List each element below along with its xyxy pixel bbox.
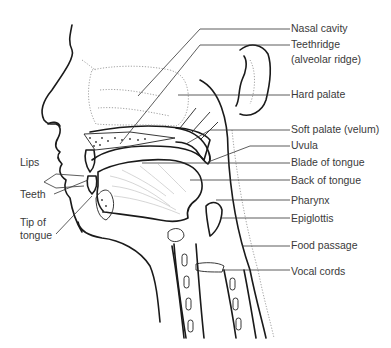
bone-stipple xyxy=(89,137,146,147)
nasal-cavity-outline xyxy=(89,66,189,126)
label-soft-palate: Soft palate (velum) xyxy=(291,123,379,135)
label-food-passage: Food passage xyxy=(291,239,358,251)
leader-teethridge xyxy=(120,45,290,144)
hard-palate-outline xyxy=(90,126,210,160)
label-tip-of: Tip of xyxy=(20,216,46,228)
tongue-muscle-hatching xyxy=(110,164,186,214)
leader-teeth xyxy=(54,180,88,194)
label-nasal-cavity: Nasal cavity xyxy=(291,22,348,34)
leader-lines-right xyxy=(120,29,290,270)
label-epiglottis: Epiglottis xyxy=(291,212,334,224)
upper-teeth xyxy=(85,150,95,172)
tongue-outline xyxy=(97,160,202,222)
hyoid xyxy=(168,229,184,242)
leader-lines-left xyxy=(44,174,92,234)
label-teethridge: Teethridge xyxy=(291,38,340,50)
label-pharynx: Pharynx xyxy=(291,194,330,206)
leader-tip-of-tongue xyxy=(56,196,92,234)
esophagus-back xyxy=(244,270,256,338)
jaw-neck-outline xyxy=(78,222,160,322)
label-alveolar-ridge: (alveolar ridge) xyxy=(291,53,361,65)
label-uvula: Uvula xyxy=(291,139,318,151)
leader-soft-palate xyxy=(186,130,290,144)
face-profile-outline xyxy=(42,25,82,232)
vocal-cords xyxy=(196,263,224,272)
label-teeth: Teeth xyxy=(20,188,46,200)
label-back-of-tongue: Back of tongue xyxy=(291,174,361,186)
label-vocal-cords: Vocal cords xyxy=(291,265,345,277)
neck-front-outline xyxy=(174,244,186,338)
leader-uvula xyxy=(208,146,290,162)
trachea-rings xyxy=(182,254,241,332)
label-lips: Lips xyxy=(20,156,39,168)
lower-teeth xyxy=(87,176,97,194)
label-tongue: tongue xyxy=(20,229,52,241)
ear-inner xyxy=(236,56,246,106)
vocal-tract-diagram: Nasal cavity Teethridge (alveolar ridge)… xyxy=(0,0,391,348)
leader-lips-lower xyxy=(44,182,84,188)
leader-nasal-cavity xyxy=(138,29,290,96)
label-blade-of-tongue: Blade of tongue xyxy=(291,156,365,168)
trachea-back xyxy=(196,244,204,338)
label-hard-palate: Hard palate xyxy=(291,88,345,100)
epiglottis xyxy=(206,203,222,236)
